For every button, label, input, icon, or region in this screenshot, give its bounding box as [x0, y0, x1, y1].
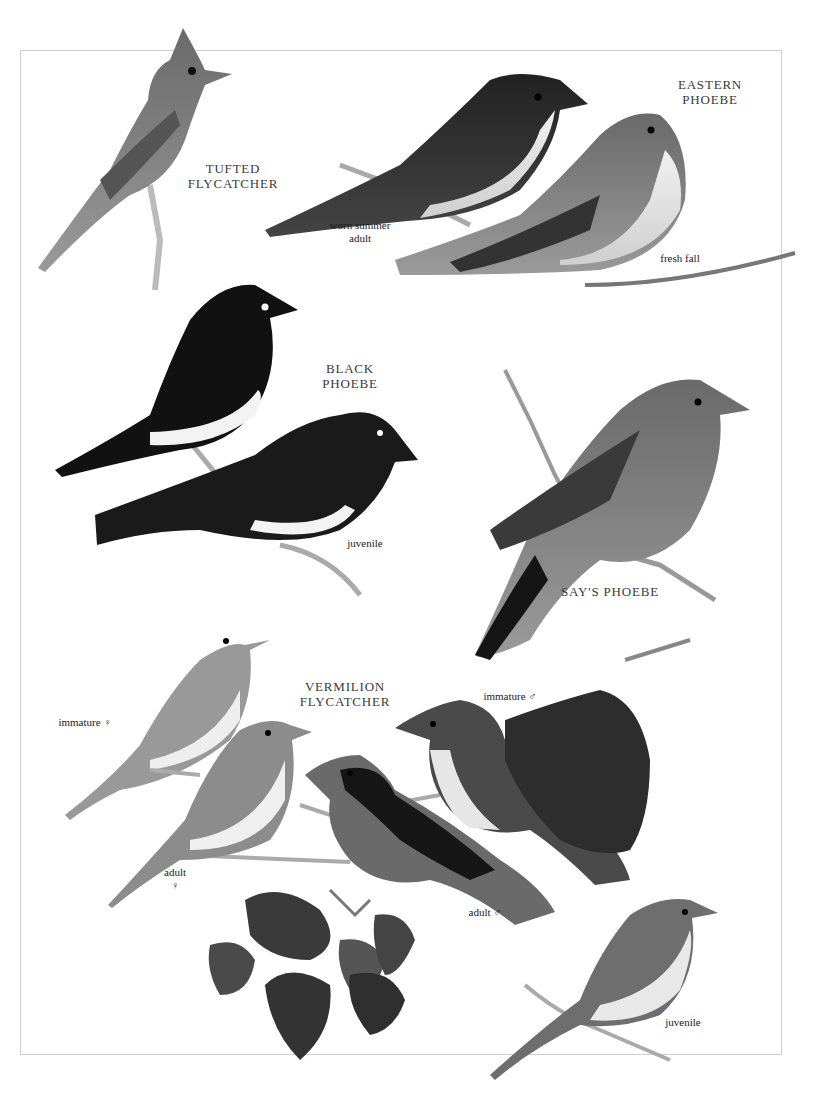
plumage-line1: fresh fall: [640, 252, 720, 265]
says-phoebe-label: SAY'S PHOEBE: [555, 585, 665, 600]
black-phoebe-juvenile-label: juvenile: [325, 537, 405, 550]
vermilion-flycatcher-label: VERMILION FLYCATCHER: [290, 680, 400, 710]
plumage-line2: adult: [310, 232, 410, 245]
black-phoebe-label: BLACK PHOEBE: [300, 362, 400, 392]
plumage-line1: adult ♂: [450, 906, 520, 919]
plumage-line1: juvenile: [648, 1016, 718, 1029]
species-name-line2: FLYCATCHER: [290, 695, 400, 710]
vermilion-immature-male-label: immature ♂: [465, 690, 555, 703]
vermilion-adult-female-label: adult ♀: [150, 866, 200, 891]
species-name-line1: TUFTED: [178, 162, 288, 177]
vermilion-adult-male-label: adult ♂: [450, 906, 520, 919]
says-phoebe-illustration: [475, 370, 750, 660]
vermilion-juvenile-illustration: [490, 899, 718, 1080]
species-name-line1: SAY'S PHOEBE: [555, 585, 665, 600]
vermilion-immature-female-label: immature ♀: [45, 716, 125, 729]
plate-illustrations: [0, 0, 828, 1100]
plumage-line1: worn summer: [310, 219, 410, 232]
species-name-line1: EASTERN: [655, 78, 765, 93]
tufted-flycatcher-illustration: [38, 28, 232, 290]
species-name-line1: VERMILION: [290, 680, 400, 695]
tufted-flycatcher-label: TUFTED FLYCATCHER: [178, 162, 288, 192]
birch-leaves-illustration: [209, 890, 415, 1060]
plumage-line1: juvenile: [325, 537, 405, 550]
species-name-line2: FLYCATCHER: [178, 177, 288, 192]
vermilion-juvenile-label: juvenile: [648, 1016, 718, 1029]
eastern-phoebe-worn-summer-label: worn summer adult: [310, 219, 410, 244]
plumage-line2: ♀: [150, 879, 200, 892]
plumage-line1: immature ♂: [465, 690, 555, 703]
species-name-line1: BLACK: [300, 362, 400, 377]
eastern-phoebe-label: EASTERN PHOEBE: [655, 78, 765, 108]
plumage-line1: immature ♀: [45, 716, 125, 729]
eastern-phoebe-fresh-fall-label: fresh fall: [640, 252, 720, 265]
species-name-line2: PHOEBE: [300, 377, 400, 392]
species-name-line2: PHOEBE: [655, 93, 765, 108]
plumage-line1: adult: [150, 866, 200, 879]
